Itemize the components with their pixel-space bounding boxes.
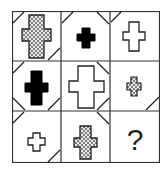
corner-mark-bottom-right [48, 48, 60, 60]
corner-mark-top-right [97, 12, 109, 24]
puzzle-grid: ? [12, 11, 160, 163]
cross-shape [127, 77, 141, 96]
corner-mark-top-left [62, 12, 73, 23]
cross-shape [25, 71, 48, 105]
corner-mark-bottom-right [48, 150, 60, 162]
cell-r1-c1 [69, 62, 109, 110]
cross-shape [123, 22, 145, 51]
corner-mark-top-left [111, 12, 121, 22]
cross-shape [28, 133, 45, 151]
corner-mark-bottom-right [48, 98, 60, 110]
cell-r1-c0 [13, 62, 60, 110]
cell-r2-c0 [13, 112, 60, 162]
corner-mark-top-left [13, 62, 24, 73]
corner-mark-bottom-left [13, 98, 25, 110]
cell-r0-c0 [13, 12, 60, 60]
cell-r0-c1 [62, 12, 109, 48]
cell-r2-c1 [74, 112, 109, 159]
cross-shape [77, 28, 95, 48]
corner-mark-bottom-right [146, 97, 159, 110]
cell-r1-c2 [127, 77, 159, 110]
cell-r0-c2 [111, 12, 145, 51]
corner-mark-top-right [97, 62, 109, 74]
corner-mark-top-left [13, 112, 24, 123]
corner-mark-top-left [13, 12, 24, 23]
question-mark: ? [127, 123, 144, 156]
corner-mark-top-right [97, 112, 109, 124]
cross-shape [69, 66, 104, 108]
cross-shape [22, 15, 51, 58]
corner-mark-bottom-right [97, 98, 109, 110]
cross-shape [74, 126, 97, 159]
cell-r2-c2: ? [127, 123, 144, 156]
